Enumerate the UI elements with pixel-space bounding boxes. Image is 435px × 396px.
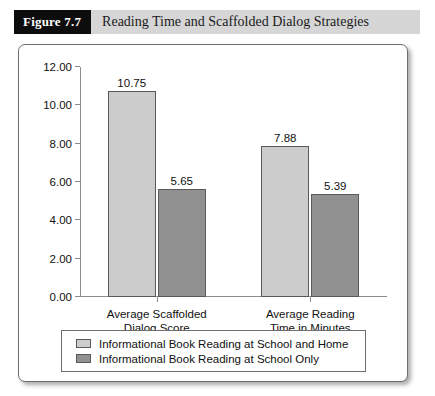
y-axis-tick bbox=[75, 296, 80, 297]
bar[interactable]: 7.88 bbox=[261, 146, 309, 297]
legend-label: Informational Book Reading at School Onl… bbox=[99, 353, 319, 365]
x-axis-tick bbox=[157, 297, 158, 302]
legend-item[interactable]: Informational Book Reading at School Onl… bbox=[76, 351, 359, 366]
figure-header: Figure 7.7 Reading Time and Scaffolded D… bbox=[14, 10, 420, 34]
y-axis-tick-label: 8.00 bbox=[50, 138, 72, 150]
legend-label: Informational Book Reading at School and… bbox=[99, 338, 348, 350]
category-label-line: Average Scaffolded bbox=[80, 307, 234, 321]
bar-value-label: 5.65 bbox=[171, 175, 193, 187]
y-axis-tick bbox=[75, 219, 80, 220]
figure-number-badge: Figure 7.7 bbox=[14, 10, 91, 34]
bar-value-label: 5.39 bbox=[324, 180, 346, 192]
bar-value-label: 7.88 bbox=[274, 132, 296, 144]
y-axis-tick bbox=[75, 143, 80, 144]
legend-swatch bbox=[76, 339, 91, 348]
figure-title: Reading Time and Scaffolded Dialog Strat… bbox=[91, 10, 369, 34]
y-axis-tick-label: 2.00 bbox=[50, 253, 72, 265]
plot-area: 0.002.004.006.008.0010.0012.00 10.755.65… bbox=[80, 67, 387, 297]
y-axis-tick-label: 10.00 bbox=[43, 99, 72, 111]
y-axis-tick-label: 12.00 bbox=[43, 61, 72, 73]
legend-swatch bbox=[76, 354, 91, 363]
chart-frame: 0.002.004.006.008.0010.0012.00 10.755.65… bbox=[18, 44, 408, 382]
chart-legend: Informational Book Reading at School and… bbox=[61, 330, 366, 372]
x-axis-tick bbox=[310, 297, 311, 302]
bar[interactable]: 5.39 bbox=[311, 194, 359, 297]
y-axis-tick-label: 0.00 bbox=[50, 291, 72, 303]
bar-value-label: 10.75 bbox=[117, 77, 146, 89]
y-axis-tick bbox=[75, 181, 80, 182]
bar[interactable]: 5.65 bbox=[158, 189, 206, 297]
y-axis-tick-label: 4.00 bbox=[50, 214, 72, 226]
bar[interactable]: 10.75 bbox=[108, 91, 156, 297]
y-axis-line bbox=[80, 67, 81, 297]
y-axis-tick bbox=[75, 66, 80, 67]
y-axis-tick-label: 6.00 bbox=[50, 176, 72, 188]
legend-item[interactable]: Informational Book Reading at School and… bbox=[76, 336, 359, 351]
category-label-line: Average Reading bbox=[234, 307, 388, 321]
y-axis-tick bbox=[75, 104, 80, 105]
y-axis-tick bbox=[75, 258, 80, 259]
